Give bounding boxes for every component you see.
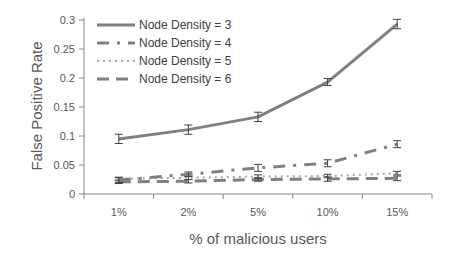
y-axis-title: False Positive Rate — [28, 41, 45, 170]
y-tick-label: 0.2 — [60, 72, 75, 84]
legend-label: Node Density = 4 — [139, 36, 232, 50]
x-axis-ticks: 1%2%5%10%15% — [84, 194, 432, 218]
y-axis-ticks: 00.050.10.150.20.250.3 — [54, 14, 84, 200]
legend-label: Node Density = 6 — [139, 72, 232, 86]
x-tick-label: 1% — [111, 206, 127, 218]
y-tick-label: 0.1 — [60, 130, 75, 142]
legend-item-density-4: Node Density = 4 — [97, 36, 232, 50]
x-tick-label: 5% — [250, 206, 266, 218]
x-tick-label: 15% — [386, 206, 408, 218]
line-chart: 00.050.10.150.20.250.3 1%2%5%10%15% % of… — [0, 0, 454, 258]
legend: Node Density = 3 Node Density = 4 Node D… — [97, 18, 232, 86]
legend-label: Node Density = 5 — [139, 54, 232, 68]
y-tick-label: 0.05 — [54, 159, 75, 171]
y-tick-label: 0.15 — [54, 101, 75, 113]
x-tick-label: 2% — [180, 206, 196, 218]
legend-item-density-3: Node Density = 3 — [97, 18, 232, 32]
legend-label: Node Density = 3 — [139, 18, 232, 32]
y-tick-label: 0.25 — [54, 43, 75, 55]
x-axis-title: % of malicious users — [189, 230, 327, 247]
legend-item-density-6: Node Density = 6 — [97, 72, 232, 86]
x-tick-label: 10% — [317, 206, 339, 218]
y-tick-label: 0.3 — [60, 14, 75, 26]
legend-item-density-5: Node Density = 5 — [97, 54, 232, 68]
y-tick-label: 0 — [69, 188, 75, 200]
